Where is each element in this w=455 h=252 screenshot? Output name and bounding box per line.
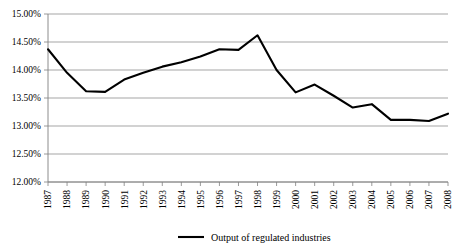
x-tick-label-2004: 2004: [367, 190, 377, 209]
y-tick-label: 14.00%: [12, 65, 41, 75]
series-line-0: [48, 35, 448, 121]
gridlines: [48, 14, 448, 182]
x-tick-label-2000: 2000: [291, 190, 301, 209]
x-tick-label-1987: 1987: [43, 190, 53, 209]
x-tick-label-1988: 1988: [62, 190, 72, 209]
x-tick-label-2006: 2006: [405, 190, 415, 209]
chart-canvas: 15.00%14.50%14.00%13.50%13.00%12.50%12.0…: [0, 0, 455, 252]
x-tick-label-1990: 1990: [101, 190, 111, 209]
x-tick-label-1994: 1994: [177, 190, 187, 209]
y-tick-label: 13.50%: [12, 93, 41, 103]
x-tick-label-1992: 1992: [139, 190, 149, 209]
x-tick-label-2007: 2007: [424, 190, 434, 209]
x-tick-label-2002: 2002: [329, 190, 339, 209]
x-tick-label-1997: 1997: [234, 190, 244, 209]
y-tick-label: 13.00%: [12, 121, 41, 131]
x-tick-labels: 1987198819891990199119921993199419951996…: [43, 190, 453, 209]
y-tick-label: 15.00%: [12, 9, 41, 19]
y-tick-label: 12.00%: [12, 177, 41, 187]
y-tick-label: 12.50%: [12, 149, 41, 159]
x-tick-marks: [48, 182, 448, 186]
legend-label-0: Output of regulated industries: [211, 232, 331, 243]
x-tick-label-2005: 2005: [386, 190, 396, 209]
x-tick-label-1993: 1993: [158, 190, 168, 209]
y-tick-marks: [44, 14, 48, 182]
chart-legend: Output of regulated industries: [178, 232, 331, 243]
y-tick-label: 14.50%: [12, 37, 41, 47]
x-tick-label-1991: 1991: [120, 190, 130, 209]
x-tick-label-2003: 2003: [348, 190, 358, 209]
x-tick-label-1996: 1996: [215, 190, 225, 209]
y-tick-labels: 15.00%14.50%14.00%13.50%13.00%12.50%12.0…: [12, 9, 41, 187]
x-tick-label-1989: 1989: [81, 190, 91, 209]
x-tick-label-2008: 2008: [443, 190, 453, 209]
x-tick-label-1998: 1998: [253, 190, 263, 209]
x-tick-label-1995: 1995: [196, 190, 206, 209]
data-series-group: [48, 35, 448, 121]
x-tick-label-2001: 2001: [310, 190, 320, 209]
line-chart: 15.00%14.50%14.00%13.50%13.00%12.50%12.0…: [0, 0, 455, 252]
x-tick-label-1999: 1999: [272, 190, 282, 209]
